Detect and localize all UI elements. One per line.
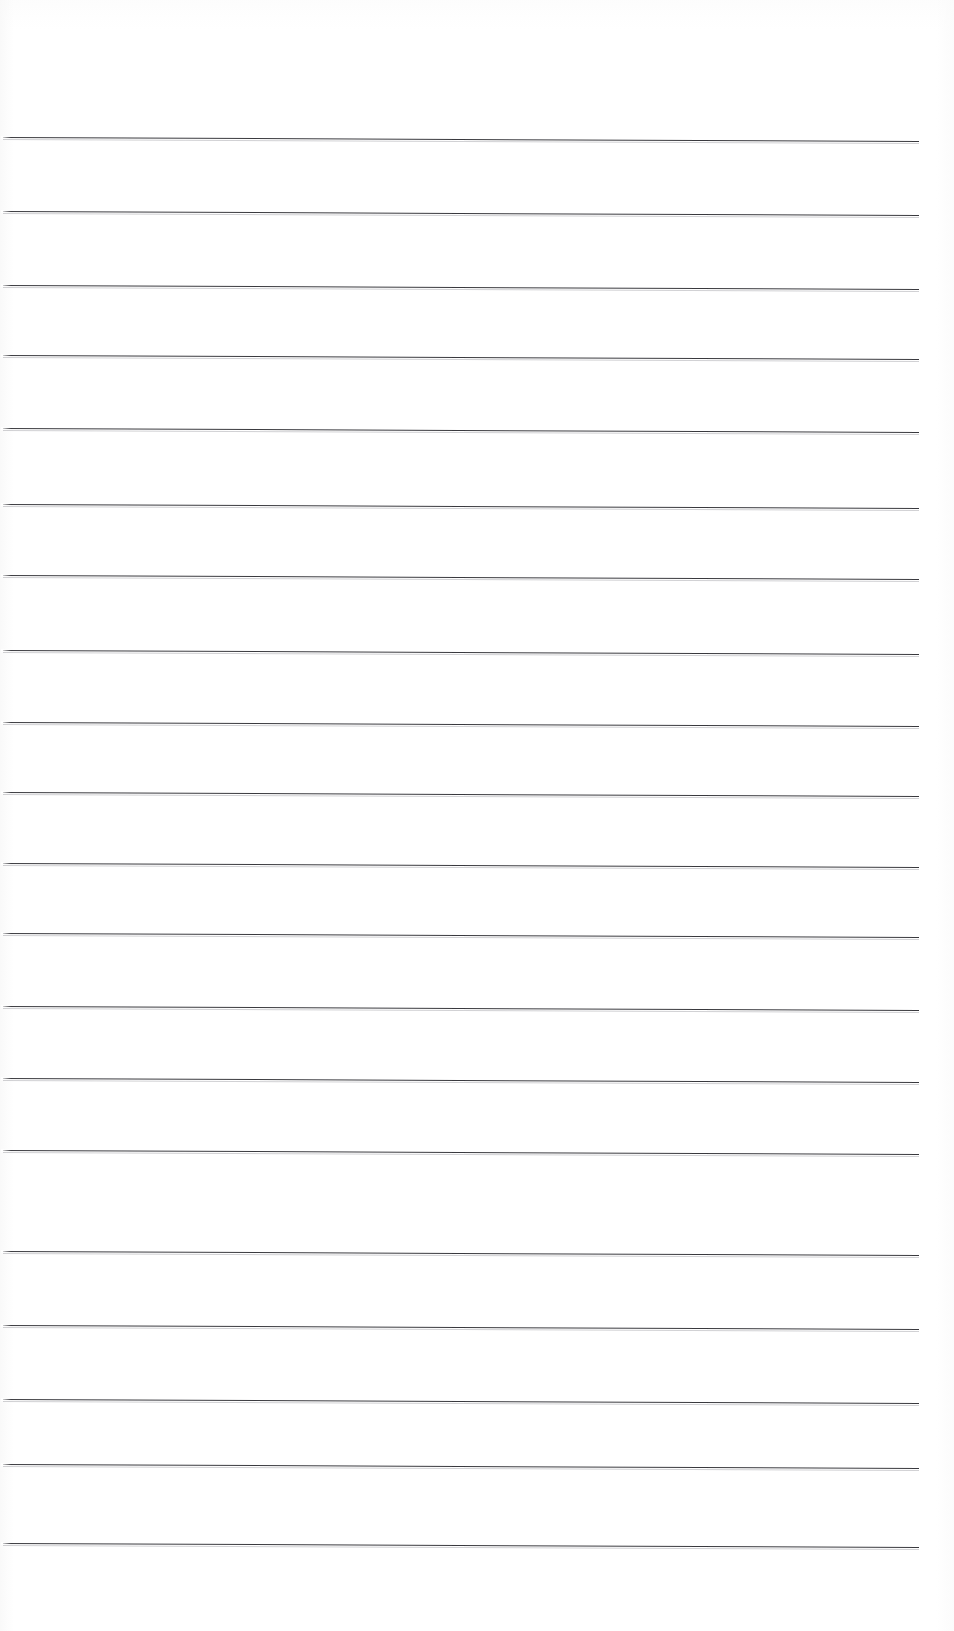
ruled-line: [3, 285, 919, 290]
ruled-line: [3, 355, 919, 360]
ruled-line: [3, 428, 919, 433]
ruled-line: [3, 1543, 919, 1548]
ruled-line: [3, 1251, 919, 1256]
ruled-line: [3, 933, 919, 938]
ruled-line: [3, 1006, 919, 1011]
paper-surface: [0, 0, 954, 1631]
ruled-line: [3, 722, 919, 727]
ruled-line: [3, 650, 919, 655]
ruled-line: [3, 504, 919, 509]
ruled-line: [3, 1150, 919, 1155]
scanned-page: [0, 0, 954, 1631]
ruled-line: [3, 211, 919, 216]
ruled-line: [3, 1325, 919, 1330]
ruled-line: [3, 575, 919, 580]
ruled-line: [3, 1464, 919, 1469]
ruled-line: [3, 792, 919, 797]
ruled-line: [3, 137, 919, 142]
ruled-line: [3, 1078, 919, 1083]
ruled-line: [3, 1399, 919, 1404]
ruled-line: [3, 863, 919, 868]
